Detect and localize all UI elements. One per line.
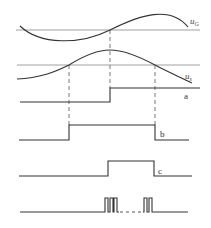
uG-label: uG bbox=[190, 16, 200, 27]
signal-c-label: c bbox=[158, 166, 162, 176]
signal-c bbox=[19, 161, 192, 176]
timing-diagram: uG us a b c bbox=[0, 0, 211, 228]
us-label: us bbox=[185, 71, 193, 82]
pulse-train-group-2 bbox=[143, 198, 188, 212]
uG-waveform bbox=[20, 14, 188, 41]
signal-a-label: a bbox=[184, 91, 188, 101]
signal-a bbox=[20, 88, 200, 102]
signal-b-label: b bbox=[160, 129, 165, 139]
pulse-train-group-1 bbox=[20, 198, 119, 212]
us-waveform bbox=[17, 50, 192, 83]
